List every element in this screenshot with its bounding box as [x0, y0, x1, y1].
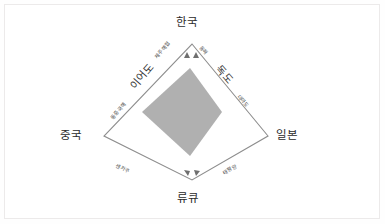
diagram-canvas: 한국 중국 일본 류큐 이어도 독도 제주해협 동중국해 동해 대마도 센카쿠 … — [0, 0, 385, 224]
vertex-label-ryukyu: 류큐 — [177, 193, 200, 205]
vertex-label-japan: 일본 — [276, 130, 299, 142]
vertex-label-china: 중국 — [60, 130, 83, 142]
arrowhead-to-korea-left — [184, 52, 190, 58]
vertex-label-korea: 한국 — [176, 17, 199, 29]
arrowhead-to-ryukyu-left — [184, 170, 190, 176]
arrowhead-to-korea-right — [193, 52, 199, 58]
arrowhead-to-ryukyu-right — [194, 170, 200, 176]
inner-diamond — [142, 68, 222, 156]
